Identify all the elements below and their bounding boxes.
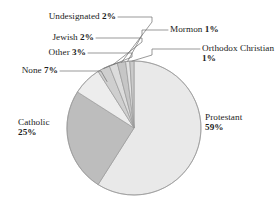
- slice-label-catholic-name: Catholic: [18, 117, 50, 127]
- slice-label-protestant-pct: 59%: [205, 122, 224, 132]
- slice-label-other-name: Other: [49, 47, 70, 57]
- leader-line-orthodox-christian: [132, 49, 200, 61]
- slice-label-catholic: Catholic 25%: [18, 117, 74, 138]
- slice-label-orthodox-christian: Orthodox Christian 1%: [202, 43, 275, 64]
- slice-label-orthodox-christian-pct: 1%: [202, 53, 216, 63]
- slice-label-undesignated: Undesignated 2%: [49, 11, 116, 21]
- slice-label-jewish-name: Jewish: [52, 32, 77, 42]
- leader-line-undesignated: [118, 17, 152, 62]
- slice-label-undesignated-pct: 2%: [102, 11, 116, 21]
- slice-label-other-pct: 3%: [72, 47, 86, 57]
- slice-label-none: None 7%: [22, 65, 58, 75]
- slice-label-other: Other 3%: [49, 47, 86, 57]
- slice-label-mormon-name: Mormon: [170, 24, 202, 34]
- slice-label-mormon-pct: 1%: [205, 24, 219, 34]
- slice-label-catholic-pct: 25%: [18, 127, 37, 137]
- slice-label-protestant-name: Protestant: [205, 112, 242, 122]
- slice-label-jewish: Jewish 2%: [52, 32, 94, 42]
- slice-label-protestant: Protestant 59%: [205, 112, 269, 133]
- slice-label-orthodox-christian-name: Orthodox Christian: [202, 43, 274, 53]
- pie-chart-graphic: [0, 0, 275, 199]
- pie-chart: Undesignated 2% Jewish 2% Other 3% None …: [0, 0, 275, 199]
- slice-label-undesignated-name: Undesignated: [49, 11, 100, 21]
- slice-label-mormon: Mormon 1%: [170, 24, 219, 34]
- slice-label-none-pct: 7%: [44, 65, 58, 75]
- slice-label-jewish-pct: 2%: [80, 32, 94, 42]
- slice-label-none-name: None: [22, 65, 42, 75]
